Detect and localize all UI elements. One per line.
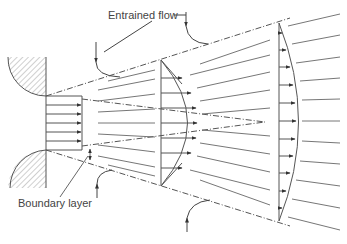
velocity-profile-downstream: [279, 23, 299, 221]
jet-diagram: Entrained flow Boundary layer: [0, 0, 347, 244]
velocity-profile-middle: [161, 60, 197, 186]
nozzle-wall-lower: [8, 150, 46, 188]
nozzle-wall-upper: [8, 57, 46, 96]
entrainment-arrows: [96, 12, 210, 232]
velocity-profile-exit: [46, 96, 82, 150]
entrained-flow-label: Entrained flow: [108, 10, 178, 21]
boundary-layer-label: Boundary layer: [18, 198, 92, 209]
streamlines: [98, 14, 340, 230]
jet-outer-boundary: [46, 18, 290, 226]
